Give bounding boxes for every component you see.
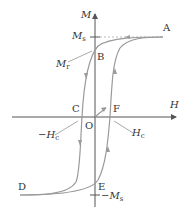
hc-label: Hc bbox=[132, 128, 145, 140]
hc-symbol: H bbox=[132, 127, 141, 138]
point-f-label: F bbox=[113, 104, 120, 114]
hc-subscript: c bbox=[141, 132, 145, 140]
h-axis-label: H bbox=[170, 100, 179, 110]
point-a-label: A bbox=[163, 23, 170, 33]
origin-label: O bbox=[85, 121, 93, 131]
ms-symbol: M bbox=[72, 30, 82, 41]
ms-label: Ms bbox=[72, 31, 86, 43]
ms-subscript: s bbox=[82, 35, 86, 43]
ascending-branch bbox=[20, 37, 163, 195]
arrow-down-left-icon bbox=[84, 73, 88, 79]
neg-ms-symbol: M bbox=[109, 190, 119, 201]
mr-subscript: r bbox=[66, 63, 69, 71]
point-d-label: D bbox=[18, 182, 26, 192]
mr-pointer bbox=[68, 51, 92, 62]
point-c-label: C bbox=[72, 104, 80, 114]
m-axis-label: M bbox=[81, 10, 91, 20]
neg-hc-symbol: H bbox=[46, 129, 55, 140]
hysteresis-diagram bbox=[0, 0, 185, 217]
mr-label: Mr bbox=[56, 59, 70, 71]
neg-ms-label: −Ms bbox=[101, 191, 123, 203]
neg-ms-subscript: s bbox=[120, 195, 124, 203]
arrow-down-lower-icon bbox=[78, 140, 82, 146]
mr-symbol: M bbox=[56, 58, 66, 69]
point-b-label: B bbox=[97, 52, 104, 62]
neg-hc-label: −Hc bbox=[38, 130, 59, 142]
descending-branch bbox=[20, 37, 163, 195]
hc-pointer bbox=[114, 121, 133, 133]
neg-hc-subscript: c bbox=[55, 134, 59, 142]
